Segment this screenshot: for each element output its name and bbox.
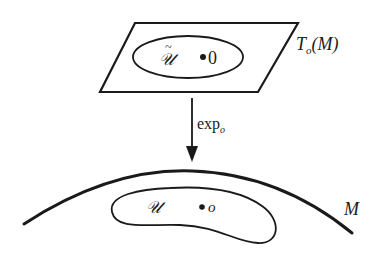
tangent-origin-label: 0 — [208, 48, 217, 68]
exp-map-label: expo — [197, 115, 225, 135]
manifold-point-dot — [199, 204, 205, 210]
exponential-map-diagram: ~ 𝒰 0 To(M) expo M 𝒰 o — [0, 0, 384, 267]
tangent-region-label: 𝒰 — [159, 50, 179, 69]
tangent-origin-dot — [200, 54, 206, 60]
manifold-neighborhood — [112, 188, 276, 244]
tangent-plane — [100, 23, 298, 92]
manifold-region-label: 𝒰 — [146, 198, 166, 217]
manifold-label: M — [343, 199, 360, 219]
tangent-plane-label: To(M) — [296, 34, 339, 56]
manifold-point-label: o — [208, 199, 216, 215]
tangent-neighborhood — [133, 36, 243, 78]
manifold-curve — [24, 171, 352, 233]
exp-map-arrowhead-icon — [186, 146, 198, 162]
